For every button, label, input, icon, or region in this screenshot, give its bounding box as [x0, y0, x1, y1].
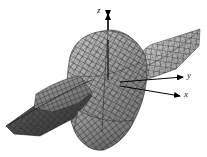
- x-axis-label: x: [184, 90, 188, 99]
- z-axis-label: z: [97, 6, 101, 15]
- surface-figure: z y x: [0, 0, 207, 157]
- y-axis-label: y: [187, 71, 191, 80]
- surface-plot-canvas: [0, 0, 207, 157]
